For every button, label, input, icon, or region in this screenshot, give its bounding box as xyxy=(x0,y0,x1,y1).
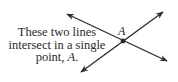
caption-line-3-prefix: point, xyxy=(36,50,68,64)
caption-line-1: These two lines xyxy=(8,26,106,39)
intersection-point-dot xyxy=(121,39,126,44)
caption-text: These two lines intersect in a single po… xyxy=(8,26,106,64)
point-a-label: A xyxy=(118,24,125,39)
caption-line-3-suffix: . xyxy=(75,50,78,64)
caption-line-3: point, A. xyxy=(8,51,106,64)
